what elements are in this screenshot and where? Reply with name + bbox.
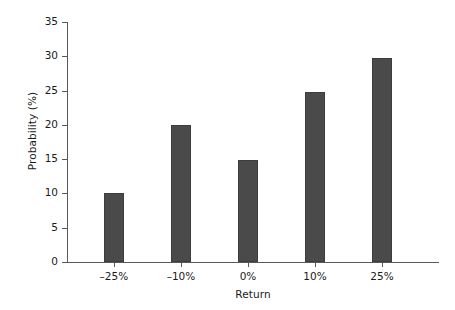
x-tick-label: 0% [240, 270, 257, 282]
x-tick-label: 25% [370, 270, 393, 282]
y-tick-label: 5 [51, 221, 58, 233]
y-tick-label: 10 [45, 186, 58, 198]
bar [305, 92, 325, 262]
y-tick-label: 25 [45, 84, 58, 96]
bar-chart-figure: Probability (%) 05101520253035 –25%–10%0… [0, 0, 455, 310]
y-tick: 0 [62, 262, 67, 263]
x-tick [114, 262, 115, 267]
bar [238, 160, 258, 262]
y-tick: 30 [62, 56, 67, 57]
y-axis-label: Probability (%) [26, 0, 40, 262]
bar [171, 125, 191, 262]
x-tick [248, 262, 249, 267]
bar [372, 58, 392, 262]
x-axis-label: Return [67, 288, 439, 300]
y-tick: 20 [62, 125, 67, 126]
bar [104, 193, 124, 262]
y-tick-label: 20 [45, 118, 58, 130]
y-tick: 25 [62, 91, 67, 92]
x-axis-spine [67, 262, 439, 263]
x-tick [382, 262, 383, 267]
x-tick [181, 262, 182, 267]
y-tick: 35 [62, 22, 67, 23]
y-tick: 15 [62, 159, 67, 160]
x-tick-label: 10% [303, 270, 326, 282]
y-tick-label: 30 [45, 49, 58, 61]
y-axis-spine [67, 22, 68, 262]
x-tick-label: –10% [167, 270, 196, 282]
y-tick-label: 0 [51, 255, 58, 267]
plot-area: 05101520253035 –25%–10%0%10%25% [67, 22, 439, 262]
y-tick: 5 [62, 228, 67, 229]
y-tick: 10 [62, 193, 67, 194]
y-tick-label: 35 [45, 15, 58, 27]
y-tick-label: 15 [45, 152, 58, 164]
x-tick-label: –25% [100, 270, 129, 282]
x-tick [315, 262, 316, 267]
